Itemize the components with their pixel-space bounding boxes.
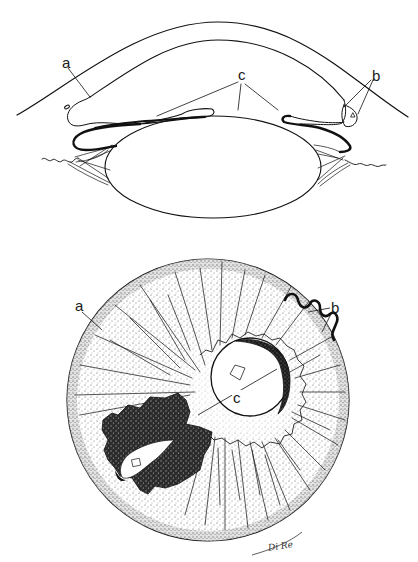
frontal-iris-view	[67, 259, 349, 555]
iris-posterior-pigment-left	[73, 124, 140, 150]
cornea-outer-surface	[17, 22, 408, 117]
iris-right-anterior	[290, 116, 344, 123]
label-c-bottom: c	[232, 390, 242, 405]
label-a-bottom: a	[75, 298, 83, 313]
iris-right-root	[300, 100, 346, 125]
zonules-left	[68, 145, 116, 185]
label-b-bottom: b	[331, 300, 339, 315]
trabecular-mark-right	[351, 113, 355, 117]
label-c-top: c	[238, 67, 246, 82]
iris-left-root	[67, 97, 140, 126]
leader-c-top-2	[238, 84, 241, 110]
label-a-top: a	[62, 55, 70, 70]
cross-section-view	[17, 22, 408, 218]
ciliary-body-right	[345, 160, 386, 166]
ciliary-body-left	[42, 158, 78, 162]
eye-anatomy-illustration	[0, 0, 418, 562]
label-b-top: b	[372, 68, 380, 83]
crystalline-lens	[105, 116, 321, 218]
leader-c-top-1	[157, 82, 238, 116]
leader-c-top-3	[245, 84, 278, 110]
leader-a-top	[68, 68, 90, 97]
schlemm-canal-left	[64, 104, 70, 109]
